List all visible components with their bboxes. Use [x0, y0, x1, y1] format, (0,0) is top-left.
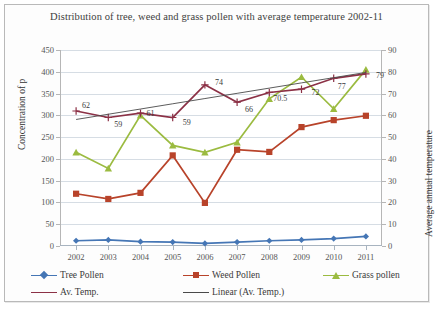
- data-point: [105, 196, 111, 202]
- y-tick-label-left: 100: [41, 197, 54, 207]
- legend-label: Grass pollen: [352, 270, 400, 280]
- data-point: [73, 238, 79, 244]
- y-tick-label-left: 200: [41, 154, 54, 164]
- data-point: [298, 73, 305, 80]
- legend-swatch-icon: [31, 287, 57, 297]
- y-tick-label-right: 90: [388, 45, 397, 55]
- x-tick-label: 2006: [196, 252, 213, 262]
- x-tick-label: 2009: [293, 252, 310, 262]
- legend-item-tree-pollen[interactable]: Tree Pollen: [31, 270, 104, 280]
- y-tick-label-right: 10: [388, 219, 397, 229]
- legend-label: Linear (Av. Temp.): [212, 287, 284, 297]
- data-point: [266, 89, 273, 96]
- legend-item-weed-pollen[interactable]: Weed Pollen: [183, 270, 260, 280]
- data-label: 62: [82, 100, 90, 109]
- data-point: [266, 149, 272, 155]
- y-axis-left-title: Concentration of p: [17, 79, 27, 150]
- y-tick-label-right: 0: [388, 241, 392, 251]
- legend-item-grass-pollen[interactable]: Grass pollen: [323, 270, 400, 280]
- data-point: [331, 235, 337, 241]
- legend-swatch-icon: [183, 270, 209, 280]
- x-tick: [237, 246, 238, 250]
- series-line: [76, 236, 366, 243]
- legend-swatch-icon: [31, 270, 57, 280]
- y-tick-label-right: 20: [388, 197, 397, 207]
- data-point: [298, 86, 305, 93]
- y-tick-label-left: 50: [46, 219, 55, 229]
- x-tick-label: 2002: [68, 252, 85, 262]
- y-tick-label-right: 30: [388, 176, 397, 186]
- data-point: [72, 107, 79, 114]
- x-tick: [205, 246, 206, 250]
- data-point: [72, 149, 79, 156]
- legend-label: Av. Temp.: [60, 287, 99, 297]
- x-tick: [366, 246, 367, 250]
- data-point: [170, 152, 176, 158]
- data-label: 59: [114, 119, 122, 128]
- data-point: [202, 200, 208, 206]
- data-label: 61: [147, 109, 155, 118]
- chart-legend: Tree PollenWeed PollenGrass pollenAv. Te…: [31, 270, 421, 306]
- y-tick-label-right: 70: [388, 89, 397, 99]
- data-label: 74: [215, 77, 223, 86]
- x-tick: [108, 246, 109, 250]
- y-tick-right: [382, 137, 386, 138]
- data-label: 77: [338, 82, 346, 91]
- y-tick-right: [382, 94, 386, 95]
- plot-area: 050100150200250300350400450 010203040506…: [60, 50, 382, 246]
- y-tick-label-left: 400: [41, 67, 54, 77]
- x-tick-label: 2004: [132, 252, 149, 262]
- y-tick-label-left: 300: [41, 110, 54, 120]
- y-tick-label-right: 50: [388, 132, 397, 142]
- legend-swatch-icon: [183, 287, 209, 297]
- chart-title: Distribution of tree, weed and grass pol…: [5, 11, 428, 22]
- data-point: [331, 117, 337, 123]
- y-tick-label-left: 350: [41, 89, 54, 99]
- data-point: [105, 165, 112, 172]
- x-tick-label: 2007: [229, 252, 246, 262]
- y-tick-label-left: 0: [50, 241, 54, 251]
- legend-label: Tree Pollen: [60, 270, 104, 280]
- x-tick-label: 2008: [261, 252, 278, 262]
- y-tick-right: [382, 181, 386, 182]
- x-tick-label: 2003: [100, 252, 117, 262]
- legend-item-av-temp[interactable]: Av. Temp.: [31, 287, 99, 297]
- series-tree-pollen: [73, 233, 369, 246]
- series-line: [76, 116, 366, 203]
- data-label: 66: [245, 105, 253, 114]
- x-tick: [302, 246, 303, 250]
- data-label: 70.5: [273, 94, 287, 103]
- data-label: 79: [376, 70, 384, 79]
- data-label: 59: [183, 117, 191, 126]
- y-tick-label-right: 80: [388, 67, 397, 77]
- data-point: [266, 238, 272, 244]
- y-tick-label-left: 150: [41, 176, 54, 186]
- chart-frame: Distribution of tree, weed and grass pol…: [4, 4, 429, 302]
- y-tick-left: [56, 246, 60, 247]
- data-point: [137, 239, 143, 245]
- x-tick: [334, 246, 335, 250]
- data-point: [298, 237, 304, 243]
- x-tick: [141, 246, 142, 250]
- y-tick-right: [382, 50, 386, 51]
- x-tick: [269, 246, 270, 250]
- data-point: [234, 239, 240, 245]
- data-point: [363, 233, 369, 239]
- data-point: [298, 124, 304, 130]
- legend-swatch-icon: [323, 270, 349, 280]
- y-tick-right: [382, 115, 386, 116]
- y-axis-right-title: Average annual temperature: [424, 130, 434, 237]
- data-point: [202, 240, 208, 246]
- data-point: [137, 190, 143, 196]
- x-tick: [76, 246, 77, 250]
- x-tick: [173, 246, 174, 250]
- data-point: [137, 109, 144, 116]
- data-point: [170, 239, 176, 245]
- y-tick-right: [382, 224, 386, 225]
- y-tick-right: [382, 159, 386, 160]
- y-tick-label-right: 60: [388, 110, 397, 120]
- data-point: [73, 191, 79, 197]
- data-point: [105, 237, 111, 243]
- data-point: [234, 147, 240, 153]
- legend-item-linear-av-temp[interactable]: Linear (Av. Temp.): [183, 287, 284, 297]
